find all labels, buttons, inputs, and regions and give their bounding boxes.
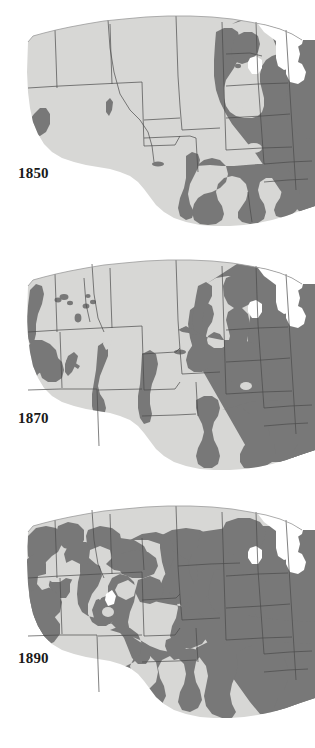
map-panel-1870: 1870 — [0, 250, 315, 472]
settlement-map-series: 1850 — [0, 0, 315, 748]
map-1850 — [0, 6, 315, 228]
map-panel-1890: 1890 — [0, 492, 315, 722]
land-base-1890 — [0, 492, 315, 722]
year-label-1890: 1890 — [18, 651, 49, 666]
map-panel-1850: 1850 — [0, 6, 315, 228]
year-label-1870: 1870 — [18, 411, 49, 426]
map-1870 — [0, 250, 315, 472]
year-label-1850: 1850 — [18, 166, 49, 181]
land-base-1850 — [0, 6, 315, 228]
land-base-1870 — [0, 250, 315, 472]
figure-caption — [14, 740, 304, 748]
map-1890 — [0, 492, 315, 722]
